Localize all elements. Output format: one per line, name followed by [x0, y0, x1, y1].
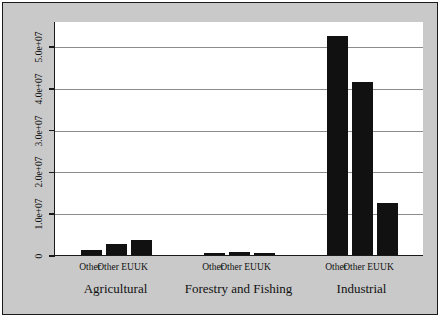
y-axis-tick-mark	[49, 213, 55, 215]
y-axis-tick-label: 0	[34, 254, 44, 259]
x-axis-group-label: Agricultural	[84, 281, 148, 297]
bar	[254, 253, 275, 256]
x-axis-tick-label: Other EU	[343, 262, 380, 272]
chart-figure: Thousands of euros 01.0e+072.0e+073.0e+0…	[0, 0, 442, 318]
y-axis-tick-mark	[49, 255, 55, 257]
x-axis-tick-label: UK	[134, 262, 148, 272]
y-axis-title-container: Thousands of euros	[13, 22, 31, 256]
bar	[229, 252, 250, 255]
x-axis-tick-label: UK	[380, 262, 394, 272]
bar	[327, 36, 348, 255]
y-axis-tick-label: 3.0e+07	[34, 115, 44, 146]
y-axis-tick-label: 2.0e+07	[34, 157, 44, 188]
x-axis-tick-label: Other EU	[97, 262, 134, 272]
y-axis-tick-mark	[49, 130, 55, 132]
y-axis-tick-label: 4.0e+07	[34, 73, 44, 104]
x-axis-tick-label: UK	[257, 262, 271, 272]
bar	[81, 250, 102, 255]
x-axis-tick-label: Other EU	[220, 262, 257, 272]
bar	[204, 253, 225, 256]
plot-area	[54, 22, 423, 256]
y-axis-tick-mark	[49, 172, 55, 174]
bar	[106, 244, 127, 255]
y-axis-tick-mark	[49, 88, 55, 90]
gridline	[55, 47, 423, 48]
y-axis-tick-label: 1.0e+07	[34, 199, 44, 230]
bar	[131, 240, 152, 255]
x-axis-group-label: Industrial	[337, 281, 387, 297]
x-axis-group-label: Forestry and Fishing	[185, 281, 293, 297]
bar	[352, 82, 373, 255]
bar	[377, 203, 398, 255]
y-axis-tick-mark	[49, 46, 55, 48]
y-axis-tick-label: 5.0e+07	[34, 32, 44, 63]
